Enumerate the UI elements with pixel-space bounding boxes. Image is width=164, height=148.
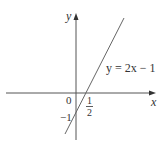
x-intercept-denominator: 2 [87, 107, 92, 118]
y-axis-arrow-icon [74, 13, 79, 20]
x-axis-label: x [150, 95, 157, 109]
y-axis-label: y [65, 9, 72, 23]
origin-label: 0 [66, 94, 72, 106]
function-line [65, 18, 124, 134]
graph-figure: y x y = 2x − 1 0 −1 1 2 [0, 0, 164, 148]
x-intercept-numerator: 1 [87, 95, 92, 106]
equation-label: y = 2x − 1 [106, 61, 156, 75]
y-intercept-label: −1 [60, 111, 72, 123]
